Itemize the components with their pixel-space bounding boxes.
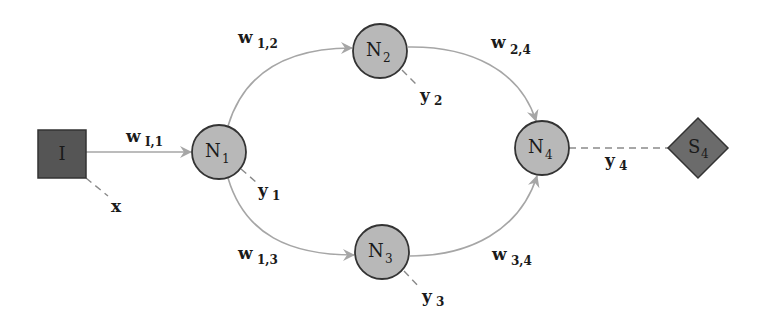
svg-text:3: 3 — [436, 295, 444, 309]
dash-i-x — [86, 178, 108, 196]
node-label: S — [688, 136, 700, 157]
edge-n1-n2 — [228, 48, 352, 126]
svg-text:2,4: 2,4 — [510, 43, 531, 57]
output-label-y1: y 1 — [257, 180, 280, 203]
output-label-y3: y 3 — [421, 286, 444, 309]
svg-text:y: y — [604, 150, 616, 170]
output-label-x: x — [111, 196, 122, 216]
node-label: N — [528, 136, 544, 157]
svg-text:1,2: 1,2 — [257, 37, 278, 51]
dash-n2-y2 — [402, 70, 418, 86]
svg-text:w: w — [237, 27, 253, 47]
dash-n1-y1 — [241, 169, 256, 182]
weight-label-i1: w I,1 — [125, 126, 163, 149]
node-n2[interactable]: N 2 — [353, 24, 407, 78]
edge-n2-n4 — [408, 47, 536, 121]
dash-n3-y3 — [404, 271, 420, 288]
node-label: I — [58, 143, 65, 164]
svg-text:y: y — [419, 85, 431, 105]
node-label: N — [205, 140, 221, 161]
svg-text:3,4: 3,4 — [511, 254, 532, 268]
network-diagram: I N 1 N 2 N 3 N 4 S 4 w I,1 w 1,2 w 1,3 … — [0, 0, 759, 325]
svg-text:I,1: I,1 — [145, 135, 163, 149]
node-output-s4[interactable]: S 4 — [668, 118, 728, 178]
node-n4[interactable]: N 4 — [515, 121, 569, 175]
output-label-y4: y 4 — [604, 150, 627, 173]
edges — [86, 47, 537, 256]
svg-text:w: w — [125, 126, 141, 146]
svg-text:w: w — [237, 243, 253, 263]
node-subscript: 3 — [385, 252, 393, 266]
svg-text:1: 1 — [272, 189, 280, 203]
node-subscript: 4 — [701, 147, 709, 161]
node-n3[interactable]: N 3 — [355, 225, 409, 279]
node-subscript: 2 — [383, 51, 391, 65]
svg-text:y: y — [421, 286, 433, 306]
weight-label-12: w 1,2 — [237, 27, 278, 51]
node-label: N — [368, 240, 384, 261]
weight-label-24: w 2,4 — [490, 32, 531, 57]
svg-text:w: w — [491, 244, 507, 264]
svg-text:y: y — [257, 180, 269, 200]
output-label-y2: y 2 — [419, 85, 442, 108]
node-n1[interactable]: N 1 — [192, 125, 246, 179]
node-input-i[interactable]: I — [38, 130, 86, 178]
weight-label-34: w 3,4 — [491, 244, 532, 268]
svg-text:4: 4 — [619, 159, 627, 173]
node-subscript: 1 — [222, 152, 230, 166]
edge-n3-n4 — [410, 176, 537, 256]
node-label: N — [366, 39, 382, 60]
svg-text:x: x — [111, 196, 122, 216]
weight-label-13: w 1,3 — [237, 243, 278, 267]
svg-text:w: w — [490, 32, 506, 52]
svg-text:1,3: 1,3 — [257, 253, 278, 267]
svg-text:2: 2 — [434, 94, 442, 108]
node-subscript: 4 — [545, 148, 553, 162]
